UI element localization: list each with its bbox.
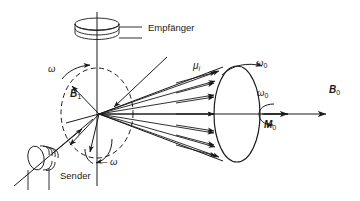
b0-field-label: B0 — [329, 85, 340, 95]
b1-field-subscript: 1 — [77, 93, 81, 100]
receiver-label: Empfänger — [148, 23, 194, 33]
nmr-rotating-frame-figure: Empfänger Sender B1 B0 M0 μi ω – ω ω0 ω0 — [0, 0, 360, 201]
transmitter-coil-icon — [26, 145, 59, 190]
transmitter-label: Sender — [60, 171, 91, 181]
b1-field-label: B1 — [70, 89, 81, 99]
m0-vector-label: M0 — [264, 120, 276, 130]
m0-vector-subscript: 0 — [272, 124, 276, 131]
omega0-cone-label: ω0 — [256, 58, 267, 68]
b0-field-subscript: 0 — [336, 89, 340, 96]
mu-i-label: μi — [193, 61, 200, 71]
receiver-coil-icon — [75, 18, 142, 40]
mu-subscript: i — [198, 65, 200, 72]
omega0-axis-label: ω0 — [257, 88, 268, 98]
omega0-axis-subscript: 0 — [264, 92, 268, 99]
omega0-cone-subscript: 0 — [263, 62, 267, 69]
omega-curved-arrow — [62, 65, 90, 79]
negative-omega-label: – ω — [102, 157, 117, 167]
omega-label: ω — [48, 64, 55, 74]
